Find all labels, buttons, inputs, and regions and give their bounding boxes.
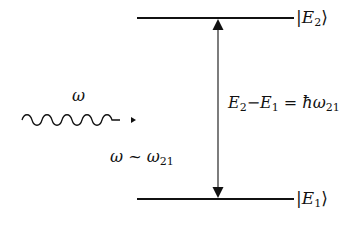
state-label-e1: |E1⟩: [296, 190, 328, 207]
subscript: 1: [272, 101, 279, 114]
equals-sign: =: [279, 93, 303, 112]
subscript: 21: [326, 101, 340, 114]
minus-sign: −: [247, 93, 260, 112]
photon-frequency-label: ω: [72, 88, 85, 104]
energy-e2-symbol: E: [228, 93, 240, 112]
arrowhead-down-icon: [213, 187, 224, 198]
energy-relation: E2−E1 = ħω21: [228, 95, 340, 111]
transition-arrow-icon: [213, 19, 224, 198]
ket-angle: ⟩: [321, 188, 328, 208]
omega-symbol: ω: [110, 147, 123, 166]
state-label-e2: |E2⟩: [296, 9, 328, 26]
omega-symbol: ω: [313, 93, 326, 112]
wavy-arrow-icon: [22, 115, 136, 126]
tilde-sign: ~: [123, 147, 147, 166]
resonance-condition: ω ~ ω21: [110, 149, 174, 165]
arrowhead-up-icon: [213, 19, 224, 30]
subscript: 2: [240, 101, 247, 114]
energy-e1-symbol: E: [260, 93, 272, 112]
state-symbol: E: [302, 188, 314, 208]
photon-arrowhead-icon: [131, 117, 136, 123]
energy-level-diagram: |E2⟩ |E1⟩ E2−E1 = ħω21 ω ω ~ ω21: [0, 0, 362, 227]
omega21-symbol: ω: [147, 147, 160, 166]
state-symbol: E: [302, 7, 314, 27]
subscript: 21: [160, 155, 174, 168]
ket-angle: ⟩: [321, 7, 328, 27]
hbar-symbol: ħ: [302, 93, 312, 112]
